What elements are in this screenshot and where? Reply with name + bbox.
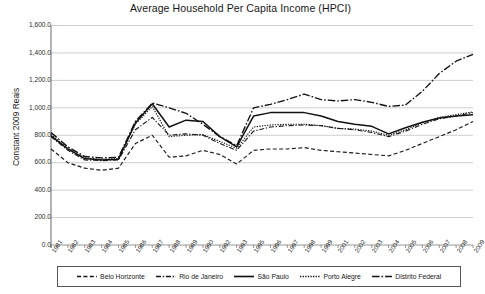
legend-item[interactable]: Porto Alegre xyxy=(300,273,361,280)
legend-line-swatch xyxy=(372,273,392,280)
data-series-group xyxy=(51,54,473,170)
legend-label: Porto Alegre xyxy=(323,273,360,280)
legend-label: São Paulo xyxy=(258,273,289,280)
legend-item[interactable]: Distrito Federal xyxy=(372,273,442,280)
legend-line-swatch xyxy=(77,273,97,280)
legend-label: Belo Horizonte xyxy=(100,273,145,280)
legend-item[interactable]: Rio de Janeiro xyxy=(156,273,223,280)
legend-line-swatch xyxy=(156,273,176,280)
legend-line-swatch xyxy=(234,273,254,280)
legend-label: Distrito Federal xyxy=(395,273,441,280)
legend-label: Rio de Janeiro xyxy=(179,273,223,280)
series-line-distrito-federal xyxy=(51,54,473,158)
legend-line-swatch xyxy=(300,273,320,280)
legend-item[interactable]: São Paulo xyxy=(234,273,289,280)
chart-legend: Belo HorizonteRio de JaneiroSão PauloPor… xyxy=(57,266,461,287)
gridlines xyxy=(51,26,473,246)
series-line-so-paulo xyxy=(51,104,473,160)
legend-item[interactable]: Belo Horizonte xyxy=(77,273,145,280)
series-line-rio-de-janeiro xyxy=(51,113,473,161)
